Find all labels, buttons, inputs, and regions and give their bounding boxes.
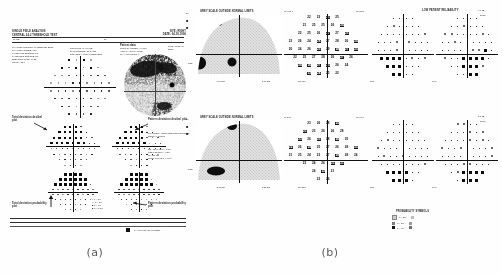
prob-legend-05: ■ P < 0.5% <box>92 207 103 210</box>
figure-root: SINGLE FIELD ANALYSIS CENTRAL 24-2 THRES… <box>0 0 502 274</box>
row1-grayscale-vaxis <box>239 15 240 77</box>
patient-name-label: NAME: <box>13 38 20 41</box>
prob-symbol-row: P < 5% <box>392 215 429 220</box>
prob-swatch-light-2-icon <box>411 216 414 219</box>
report-subtitle: CENTRAL 24-2 THRESHOLD TEST <box>12 34 102 37</box>
footer-rule-3 <box>10 226 186 227</box>
report-title-block: SINGLE FIELD ANALYSIS CENTRAL 24-2 THRES… <box>12 30 102 37</box>
row1-md-value: -6.87 DB <box>216 80 225 83</box>
threshold-plot-horizontal-axis <box>44 87 116 88</box>
panel-a-single-field-analysis: SINGLE FIELD ANALYSIS CENTRAL 24-2 THRES… <box>8 6 188 234</box>
row2-left-axis-marks: 30 ■ ■ <box>186 118 188 136</box>
prob-swatch-dark-2-icon <box>409 226 412 229</box>
row1-p1-vaxis <box>403 14 404 78</box>
patient-id-row: ID: <box>104 38 107 41</box>
total-deviation-probability-label: Total deviation probability plot <box>12 202 50 209</box>
patient-id-label: ID: <box>104 38 107 41</box>
prob-swatch-dark-icon <box>392 226 395 229</box>
grayscale-vertical-axis <box>155 54 156 116</box>
row2-grayscale-header: GREY SCALE OUTSIDE NORMAL LIMITS <box>200 116 254 119</box>
row2-grayscale-haxis <box>196 160 282 161</box>
glaucoma-hemifield-test-text: GLAUCOMA HEMIFIELD TEST OUTSIDE NORMAL L… <box>148 132 190 138</box>
row1-fl-label: FL 4/15 x <box>284 10 293 13</box>
header-rule-bottom <box>12 42 184 43</box>
prob-symbol-label-2: P < 2% <box>397 222 404 225</box>
panel-b-overview-printout: 30 ■ ■ GREY SCALE OUTSIDE NORMAL LIMITS … <box>186 4 498 236</box>
caption-b: (b) <box>295 246 365 259</box>
row1-psd-value: 2.17 DB <box>262 80 270 83</box>
report-eye-date-block: EYE: RIGHT DATE: 04-18-1996 <box>128 30 186 37</box>
test-time-block: TIME: 10:32 AM DOB: <box>168 45 188 51</box>
prob-symbol-row: P < 2% <box>392 222 429 225</box>
caption-a: (a) <box>60 246 130 259</box>
row2-fl-label: FL 5/14 <box>284 116 291 119</box>
patient-dob: DOB: <box>168 48 188 51</box>
row2-psd-value: 5.28 DB <box>262 186 270 189</box>
row2-numeric-haxis <box>284 160 368 161</box>
row2-axis-mark-2: ■ <box>186 133 188 136</box>
row1-right-top-2: 30/15 <box>480 14 485 17</box>
row2-off-label: OFF <box>370 186 374 189</box>
row2-ght-label: GHT <box>432 186 437 189</box>
footer-swatch-label: = P < 0.5% BLACK SYMBOL <box>132 229 160 232</box>
row1-psd-axis-label: PSD <box>188 62 193 65</box>
row2-right-top-2: 30/15 <box>480 120 485 123</box>
probability-legend-a: :: P < 5% ## P < 2% ■ P < 1% ■ P < 0.5% <box>92 198 103 210</box>
footer-swatch-legend: = P < 0.5% BLACK SYMBOL <box>126 228 160 232</box>
prob-swatch-mid-icon <box>392 222 395 225</box>
row2-right-top-1: 1.3 dB <box>478 115 484 118</box>
prob-symbol-row: P < 1% <box>392 226 429 229</box>
row1-p2-haxis <box>436 54 498 55</box>
patient-name-row: NAME: <box>13 38 20 41</box>
prob-swatch-light-icon <box>392 215 397 220</box>
row2-p2-vaxis <box>467 120 468 184</box>
row1-axis-mark-2: ■ <box>186 27 188 30</box>
overview-row-1: 30 ■ ■ GREY SCALE OUTSIDE NORMAL LIMITS … <box>186 10 498 114</box>
row2-axis-mark-1: ■ <box>186 126 188 129</box>
pd-numeric-horizontal-axis <box>112 146 166 147</box>
global-indices-block: MD -12.47 dB P < 0.5% PSD 8.32 dB P < 0.… <box>148 148 190 160</box>
row1-reliability-header: LOW PATIENT RELIABILITY <box>422 9 459 12</box>
row2-p2-haxis <box>436 160 498 161</box>
row1-numeric-vaxis <box>327 14 328 78</box>
row1-axis-mark-1: ■ <box>186 20 188 23</box>
row1-p1-haxis <box>372 54 434 55</box>
row2-p1-haxis <box>372 160 434 161</box>
pattern-deviation-probability-arrow <box>130 200 148 208</box>
test-parameters-block: STIMULUS: III, WHITE BACKGROUND: 31.5 AS… <box>70 47 116 56</box>
row1-threshold-numeric-grid: 2223212521252526242225262727232326242827… <box>284 14 368 78</box>
row2-axis-mark-0: 30 <box>186 118 188 121</box>
td-prob-horizontal-axis <box>48 192 98 193</box>
row1-axis-mark-0: 30 <box>186 12 188 15</box>
row2-psd-axis-label: PSD <box>188 168 193 171</box>
cpsd-index: CPSD 7.88 dB P < 0.5% <box>148 157 190 160</box>
row1-numeric-haxis <box>284 54 368 55</box>
pattern-deviation-numeric-arrow <box>132 122 150 132</box>
row1-off-label: OFF <box>370 80 374 83</box>
grayscale-horizontal-axis <box>124 91 186 92</box>
row2-fn-label: FN 2/13 <box>298 186 306 189</box>
footer-swatch-icon <box>126 228 130 232</box>
row2-grayscale-vaxis <box>239 121 240 183</box>
pattern-deviation-probability-label: Pattern deviation probability plot <box>148 202 190 209</box>
report-date: DATE: 04-18-1996 <box>128 33 186 36</box>
overview-row-2: 30 ■ ■ GREY SCALE OUTSIDE NORMAL LIMITS … <box>186 116 498 220</box>
row1-p2-vaxis <box>467 14 468 78</box>
row2-fp-label: FP 6/17 <box>356 116 364 119</box>
probability-symbols-legend: PROBABILITY SYMBOLS P < 5% P < 2% P < 1% <box>392 210 429 231</box>
td-numeric-horizontal-axis <box>46 146 100 147</box>
report-title: SINGLE FIELD ANALYSIS <box>12 30 102 33</box>
pd-prob-horizontal-axis <box>114 192 164 193</box>
row1-grayscale-haxis <box>196 54 282 55</box>
row1-ght-label: GHT <box>432 80 437 83</box>
prob-symbol-label-5: P < 5% <box>399 216 406 219</box>
footer-rule-2 <box>10 222 186 223</box>
row1-left-axis-marks: 30 ■ ■ <box>186 12 188 30</box>
row2-threshold-numeric-grid: 2326282523232626282326252826252226292527… <box>284 120 368 184</box>
pattern-deviation-numeric-label: Pattern deviation decibel plot <box>148 118 188 121</box>
total-deviation-probability-arrow <box>48 194 56 208</box>
row1-grayscale-header: GREY SCALE OUTSIDE NORMAL LIMITS <box>200 10 254 13</box>
row2-md-value: -2.27 DB <box>216 186 225 189</box>
row1-fp-label: FP 8/12 <box>356 10 364 13</box>
probability-symbols-title: PROBABILITY SYMBOLS <box>396 210 429 213</box>
